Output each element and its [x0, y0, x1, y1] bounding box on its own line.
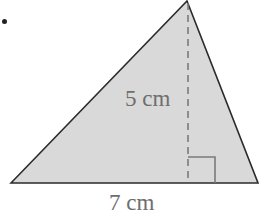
height-label: 5 cm	[125, 87, 170, 110]
base-label: 7 cm	[109, 191, 154, 214]
